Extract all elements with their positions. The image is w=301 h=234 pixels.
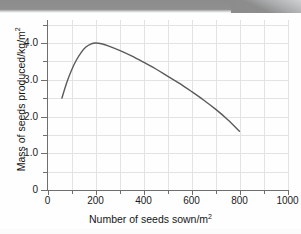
x-axis-title: Number of seeds sown/m2 bbox=[0, 212, 301, 225]
line-chart: 01.02.03.04.0 02004006008001000 Number o… bbox=[0, 13, 301, 234]
page-background: 01.02.03.04.0 02004006008001000 Number o… bbox=[0, 0, 301, 234]
scan-edge-corner bbox=[231, 0, 301, 13]
y-axis-title: Mass of seeds produced/kg/m2 bbox=[14, 9, 27, 189]
data-curve bbox=[0, 13, 301, 234]
